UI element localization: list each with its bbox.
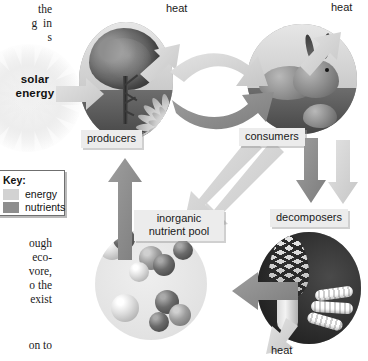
label-heat-consumers: heat	[331, 1, 352, 13]
key-title: Key:	[3, 174, 26, 186]
key-swatch-energy	[3, 189, 19, 200]
key-swatch-nutrients	[3, 202, 19, 213]
arrow-pool-to-producers-nutrients	[108, 158, 142, 260]
label-consumers: consumers	[239, 128, 305, 146]
arrow-producers-to-consumers-nutrients	[172, 92, 274, 129]
arrow-consumers-to-decomposers-energy	[328, 140, 358, 204]
arrow-solar-to-producers	[56, 78, 104, 110]
label-producers: producers	[81, 130, 142, 148]
key-label-energy: energy	[25, 188, 57, 200]
key-label-nutrients: nutrients	[25, 201, 65, 213]
arrow-decomposers-to-pool-nutrients	[232, 272, 298, 310]
arrow-producers-heat	[140, 44, 180, 83]
arrow-producers-to-consumers-energy	[170, 53, 268, 86]
label-heat-producers: heat	[166, 2, 187, 14]
arrow-consumers-to-decomposers-nutrients	[296, 138, 326, 203]
label-inorganic-nutrient-pool: inorganic nutrient pool	[134, 210, 224, 241]
label-decomposers: decomposers	[270, 209, 348, 227]
key-legend-box: Key: energy nutrients	[0, 170, 65, 216]
figure-canvas: the g in s ough eco- vore, o the exist o…	[0, 0, 368, 361]
arrow-consumers-heat	[300, 32, 341, 76]
label-heat-decomposers: heat	[271, 344, 292, 356]
